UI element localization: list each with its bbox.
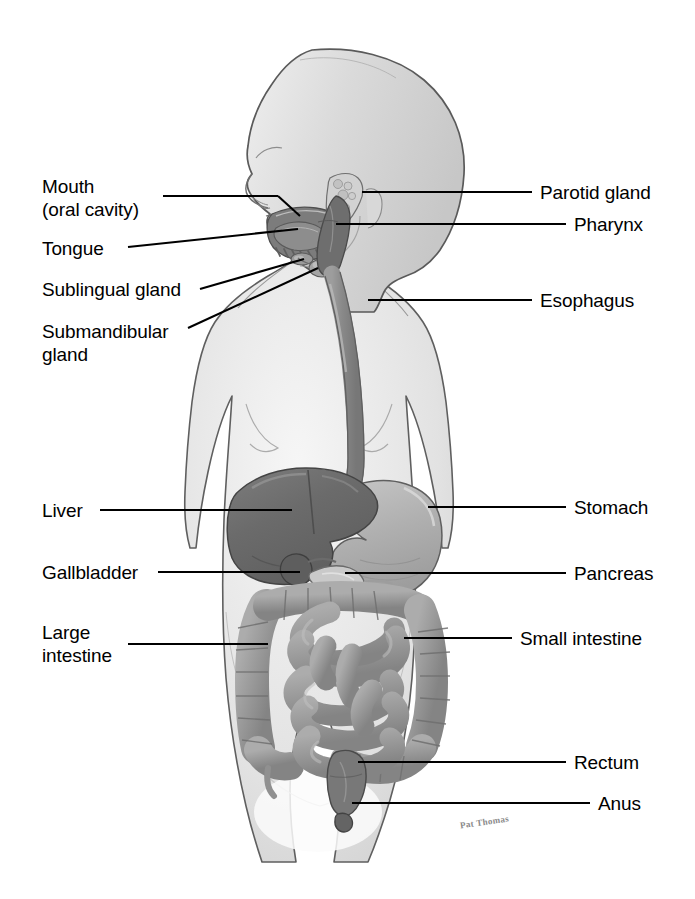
label-submandibular-gland: Submandibular gland <box>42 320 169 366</box>
label-tongue: Tongue <box>42 237 104 260</box>
label-anus: Anus <box>598 792 641 815</box>
label-stomach: Stomach <box>574 496 648 519</box>
label-small-intestine: Small intestine <box>520 627 642 650</box>
label-parotid-gland: Parotid gland <box>540 181 651 204</box>
anus <box>335 813 353 832</box>
label-pharynx: Pharynx <box>574 213 643 236</box>
label-esophagus: Esophagus <box>540 289 634 312</box>
label-gallbladder: Gallbladder <box>42 561 138 584</box>
label-sublingual-gland: Sublingual gland <box>42 278 181 301</box>
label-liver: Liver <box>42 499 83 522</box>
label-pancreas: Pancreas <box>574 562 653 585</box>
digestive-system-diagram: Mouth (oral cavity) Tongue Sublingual gl… <box>0 0 695 899</box>
label-large-intestine: Large intestine <box>42 621 112 667</box>
label-mouth: Mouth (oral cavity) <box>42 175 139 221</box>
label-rectum: Rectum <box>574 751 639 774</box>
